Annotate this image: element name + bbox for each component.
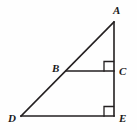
vertex-label-b: B: [52, 63, 59, 74]
vertex-label-d: D: [8, 113, 16, 124]
figure-canvas: [0, 0, 137, 130]
vertex-label-c: C: [119, 66, 126, 77]
vertex-label-e: E: [119, 113, 126, 124]
right-angle-mark-C: [104, 62, 114, 72]
geometry-figure: A B C D E: [0, 0, 137, 130]
vertex-label-a: A: [113, 5, 120, 16]
right-angle-mark-E: [104, 107, 114, 117]
segment-DA: [21, 22, 114, 116]
